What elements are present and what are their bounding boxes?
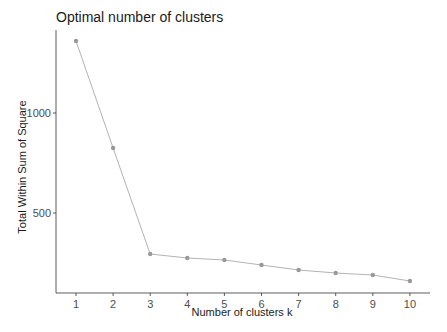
x-tick-label: 2 <box>110 298 116 310</box>
data-point <box>222 258 226 262</box>
data-point <box>185 256 189 260</box>
x-tick-label: 6 <box>258 298 264 310</box>
data-point <box>371 273 375 277</box>
x-tick-label: 10 <box>404 298 416 310</box>
x-tick-label: 9 <box>370 298 376 310</box>
data-point <box>74 39 78 43</box>
y-tick-label: 1000 <box>27 107 51 119</box>
data-point <box>148 252 152 256</box>
data-point <box>334 271 338 275</box>
x-tick-label: 7 <box>296 298 302 310</box>
x-tick-label: 5 <box>221 298 227 310</box>
x-tick-label: 1 <box>73 298 79 310</box>
y-tick-label: 500 <box>33 207 51 219</box>
data-point <box>111 146 115 150</box>
x-tick-label: 3 <box>147 298 153 310</box>
x-tick-label: 4 <box>184 298 190 310</box>
data-point <box>259 263 263 267</box>
data-series <box>74 39 412 283</box>
data-point <box>408 279 412 283</box>
series-line <box>76 41 410 281</box>
plot-area: 500100012345678910 <box>0 0 447 332</box>
x-tick-label: 8 <box>333 298 339 310</box>
data-point <box>296 268 300 272</box>
